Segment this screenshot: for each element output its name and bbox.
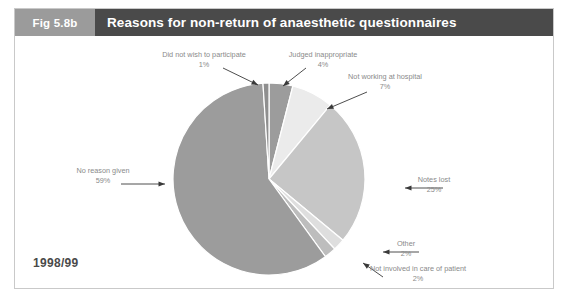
callout-not-working-at-hospital: Not working at hospital 7% (325, 72, 445, 92)
callout-label: Other (380, 239, 432, 249)
callout-label: Did not wish to participate (143, 50, 265, 60)
pie-slice-group (173, 83, 365, 275)
callout-did-not-wish-to-participate: Did not wish to participate 1% (143, 50, 265, 70)
callout-percent: 1% (143, 60, 265, 70)
figure-header: Fig 5.8b Reasons for non-return of anaes… (15, 9, 553, 36)
figure-title: Reasons for non-return of anaesthetic qu… (95, 9, 553, 36)
callout-percent: 25% (401, 185, 467, 195)
callout-label: Judged inappropriate (273, 50, 373, 60)
callout-percent: 2% (380, 249, 432, 259)
callout-other: Other 2% (380, 239, 432, 259)
callout-judged-inappropriate: Judged inappropriate 4% (273, 50, 373, 70)
callout-label: Not working at hospital (325, 72, 445, 82)
callout-percent: 59% (57, 176, 149, 186)
callout-label: Not involved in care of patient (335, 264, 501, 274)
chart-plot-area: Did not wish to participate 1% Judged in… (15, 36, 553, 288)
callout-notes-lost: Notes lost 25% (401, 175, 467, 195)
callout-label: Notes lost (401, 175, 467, 185)
callout-percent: 7% (325, 82, 445, 92)
callout-percent: 2% (335, 274, 501, 284)
pie-chart (15, 36, 553, 288)
figure-number-label: Fig 5.8b (15, 9, 95, 36)
callout-arrow-head (251, 80, 258, 85)
callout-arrow-head (159, 181, 166, 186)
callout-not-involved-in-care-of-patient: Not involved in care of patient 2% (335, 264, 501, 284)
figure-container: Fig 5.8b Reasons for non-return of anaes… (14, 8, 554, 289)
year-label: 1998/99 (33, 256, 78, 270)
callout-label: No reason given (57, 166, 149, 176)
callout-no-reason-given: No reason given 59% (57, 166, 149, 186)
callout-percent: 4% (273, 60, 373, 70)
callout-arrow-line (327, 92, 367, 109)
